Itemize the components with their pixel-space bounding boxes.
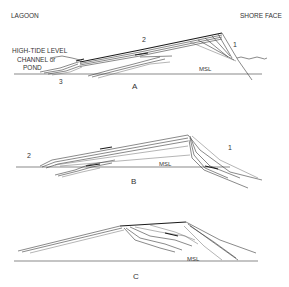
high-tide-level-label: HIGH-TIDE LEVEL (12, 47, 68, 54)
barrier-crest (80, 33, 222, 62)
panel-a-label: A (132, 82, 138, 91)
number-1-label-b: 1 (228, 144, 232, 151)
internal-layer (140, 56, 172, 57)
number-2-label: 2 (142, 36, 146, 43)
number-2-label-b: 2 (27, 152, 31, 159)
barrier-cross-section-diagram: LAGOON SHORE FACE HIGH-TIDE LEVEL CHANNE… (0, 0, 289, 287)
back-slope-layer-c (30, 230, 124, 253)
pond-label: POND (23, 64, 42, 71)
panel-a: LAGOON SHORE FACE HIGH-TIDE LEVEL CHANNE… (11, 12, 283, 91)
shore-face-slope-b (188, 135, 262, 180)
back-slope-layer-c (22, 228, 122, 252)
number-3-label: 3 (59, 78, 63, 85)
internal-layer (98, 62, 170, 78)
panel-b: 2 1 MSL B (16, 135, 262, 188)
lens-layer-b (62, 168, 100, 177)
panel-b-label: B (131, 177, 136, 186)
barrier-dark-b (100, 147, 112, 149)
number-1-label: 1 (233, 41, 237, 48)
panel-c-label: C (133, 272, 139, 281)
shore-face-label: SHORE FACE (240, 12, 283, 19)
foreset-layer-b (190, 136, 240, 178)
channel-label: CHANNEL or (17, 56, 56, 63)
lagoon-label: LAGOON (11, 12, 39, 19)
shore-face-slope (222, 33, 252, 80)
barrier-crest-c (120, 222, 186, 226)
shore-face-slope-c (186, 222, 256, 253)
foreset-layer (198, 40, 234, 60)
back-slope-c (18, 226, 120, 251)
sea-surface (237, 57, 267, 59)
msl-label: MSL (199, 66, 212, 72)
msl-label-b: MSL (159, 161, 172, 167)
panel-c: MSL C (14, 222, 258, 281)
lens-layer-b (58, 163, 112, 176)
internal-layer (92, 59, 165, 77)
